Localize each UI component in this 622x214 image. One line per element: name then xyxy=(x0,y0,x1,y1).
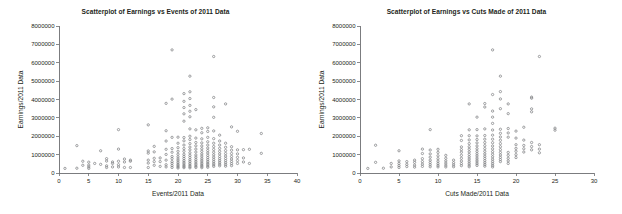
data-point xyxy=(421,152,423,154)
data-point xyxy=(219,140,221,142)
data-point xyxy=(406,165,408,167)
data-point xyxy=(515,144,517,146)
data-point xyxy=(429,166,431,168)
data-point xyxy=(165,159,167,161)
data-point xyxy=(468,139,470,141)
data-point xyxy=(213,106,215,108)
data-point xyxy=(507,113,509,115)
data-point xyxy=(530,149,532,151)
data-point xyxy=(468,151,470,153)
data-point xyxy=(189,116,191,118)
data-point xyxy=(421,148,423,150)
data-point xyxy=(507,162,509,164)
data-point xyxy=(242,157,244,159)
data-point xyxy=(499,136,501,138)
x-tick-label: 15 xyxy=(145,178,152,184)
data-point xyxy=(207,149,209,151)
data-point xyxy=(499,160,501,162)
data-point xyxy=(468,153,470,155)
data-point xyxy=(491,153,493,155)
data-point xyxy=(491,156,493,158)
x-tick-label: 20 xyxy=(513,178,520,184)
data-point xyxy=(230,146,232,148)
x-tick-label: 10 xyxy=(435,178,442,184)
data-point xyxy=(219,153,221,155)
data-point xyxy=(230,155,232,157)
x-tick-label: 0 xyxy=(57,178,61,184)
data-point xyxy=(248,162,250,164)
data-point xyxy=(117,148,119,150)
data-point xyxy=(105,166,107,168)
x-tick-label: 40 xyxy=(294,178,301,184)
data-point xyxy=(153,164,155,166)
data-point xyxy=(515,147,517,149)
data-point xyxy=(367,167,369,169)
x-tick-label: 25 xyxy=(204,178,211,184)
data-point xyxy=(468,148,470,150)
data-point xyxy=(499,90,501,92)
data-point xyxy=(398,150,400,152)
data-point xyxy=(76,167,78,169)
data-point xyxy=(507,157,509,159)
data-point xyxy=(523,151,525,153)
y-axis-title: Earnings/2011 Data xyxy=(17,70,25,128)
data-point xyxy=(230,149,232,151)
data-point xyxy=(460,149,462,151)
data-point xyxy=(491,145,493,147)
data-point xyxy=(468,146,470,148)
data-point xyxy=(111,166,113,168)
y-tick-label: 7000000 xyxy=(31,41,55,47)
data-point xyxy=(147,166,149,168)
data-point xyxy=(224,146,226,148)
y-axis-title: Earnings/2011 Data xyxy=(318,70,326,128)
data-point xyxy=(189,75,191,77)
data-point xyxy=(219,144,221,146)
data-point xyxy=(460,160,462,162)
y-tick-label: 5000000 xyxy=(31,78,55,84)
data-point xyxy=(538,152,540,154)
data-point xyxy=(224,152,226,154)
data-point xyxy=(183,106,185,108)
data-point xyxy=(538,148,540,150)
data-point xyxy=(207,141,209,143)
data-point xyxy=(523,139,525,141)
data-point xyxy=(530,108,532,110)
data-point xyxy=(491,129,493,131)
data-point xyxy=(236,153,238,155)
y-tick-label: 8000000 xyxy=(31,23,55,29)
data-point xyxy=(390,166,392,168)
data-point xyxy=(171,49,173,51)
y-tick-label: 7000000 xyxy=(332,41,356,47)
data-point xyxy=(123,158,125,160)
data-point xyxy=(183,120,185,122)
data-point xyxy=(189,97,191,99)
data-point xyxy=(177,153,179,155)
data-point xyxy=(219,134,221,136)
data-point xyxy=(260,132,262,134)
data-point xyxy=(413,161,415,163)
data-point xyxy=(530,145,532,147)
data-point xyxy=(207,127,209,129)
data-point xyxy=(499,132,501,134)
data-point xyxy=(219,165,221,167)
data-point xyxy=(429,149,431,151)
data-point xyxy=(468,129,470,131)
data-point xyxy=(201,150,203,152)
x-tick-label: 25 xyxy=(552,178,559,184)
data-point xyxy=(195,148,197,150)
data-point xyxy=(452,166,454,168)
data-point xyxy=(213,55,215,57)
data-point xyxy=(499,128,501,130)
data-point xyxy=(219,150,221,152)
data-point xyxy=(183,140,185,142)
data-point xyxy=(195,137,197,139)
data-point xyxy=(491,93,493,95)
x-tick-label: 35 xyxy=(264,178,271,184)
data-point xyxy=(207,136,209,138)
data-point xyxy=(207,152,209,154)
data-point xyxy=(189,149,191,151)
data-point xyxy=(437,166,439,168)
data-point xyxy=(224,149,226,151)
data-point xyxy=(213,96,215,98)
data-point xyxy=(484,128,486,130)
